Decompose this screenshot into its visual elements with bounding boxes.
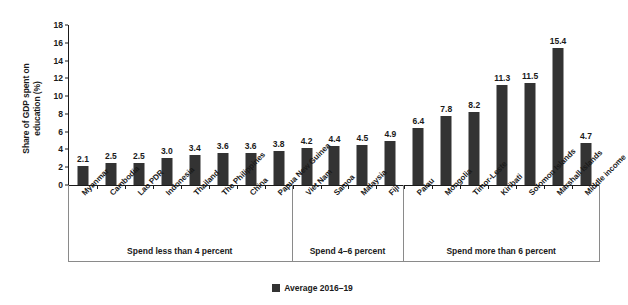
- bar: [385, 141, 396, 185]
- bar-value-label: 4.9: [384, 129, 396, 139]
- bar-value-label: 15.4: [550, 36, 567, 46]
- bar: [329, 146, 340, 185]
- bar: [357, 145, 368, 185]
- bar: [217, 153, 228, 185]
- y-tick-mark: [65, 96, 68, 97]
- y-tick-mark: [65, 25, 68, 26]
- bar-slot: 3.4: [181, 25, 209, 185]
- y-tick-mark: [65, 42, 68, 43]
- y-tick-label: 4: [28, 144, 68, 154]
- bar: [273, 151, 284, 185]
- bar-slot: 6.4: [404, 25, 432, 185]
- y-tick-label: 2: [28, 162, 68, 172]
- bar-slot: 2.5: [97, 25, 125, 185]
- bar-value-label: 8.2: [468, 100, 480, 110]
- y-tick-mark: [65, 78, 68, 79]
- legend-label: Average 2016–19: [284, 283, 353, 293]
- bar-slot: 3.0: [153, 25, 181, 185]
- bar: [77, 166, 88, 185]
- y-tick-label: 10: [28, 91, 68, 101]
- bar-value-label: 7.8: [440, 104, 452, 114]
- bar-value-label: 3.0: [161, 146, 173, 156]
- bar-value-label: 2.5: [105, 151, 117, 161]
- y-tick-mark: [65, 60, 68, 61]
- y-tick-mark: [65, 167, 68, 168]
- bar-slot: 7.8: [432, 25, 460, 185]
- bar-slot: 2.5: [125, 25, 153, 185]
- bar-slot: 2.1: [69, 25, 97, 185]
- bar-value-label: 3.6: [245, 141, 257, 151]
- bar-series: 2.12.52.53.03.43.63.63.84.24.44.54.96.47…: [69, 25, 600, 185]
- bar: [413, 128, 424, 185]
- bar-value-label: 4.7: [580, 131, 592, 141]
- bar-slot: 4.9: [376, 25, 404, 185]
- bar-slot: 4.5: [348, 25, 376, 185]
- y-tick-label: 18: [28, 20, 68, 30]
- bar-slot: 11.5: [516, 25, 544, 185]
- group-label: Spend 4–6 percent: [292, 246, 404, 256]
- legend-swatch-icon: [272, 284, 280, 292]
- y-tick-label: 16: [28, 38, 68, 48]
- bar-value-label: 4.5: [357, 133, 369, 143]
- group-label: Spend more than 6 percent: [403, 246, 599, 256]
- y-tick-mark: [65, 131, 68, 132]
- bar: [525, 83, 536, 185]
- bar-value-label: 2.5: [133, 151, 145, 161]
- bar: [441, 116, 452, 185]
- bar-slot: 4.4: [321, 25, 349, 185]
- y-tick-mark: [65, 149, 68, 150]
- bar-slot: 8.2: [460, 25, 488, 185]
- y-tick-mark: [65, 113, 68, 114]
- bar-value-label: 3.6: [217, 141, 229, 151]
- bar-value-label: 3.4: [189, 143, 201, 153]
- y-tick-label: 0: [28, 180, 68, 190]
- bar-slot: 3.8: [265, 25, 293, 185]
- bar-slot: 3.6: [209, 25, 237, 185]
- bar-value-label: 4.2: [301, 136, 313, 146]
- group-label: Spend less than 4 percent: [68, 246, 292, 256]
- bar-value-label: 4.4: [329, 134, 341, 144]
- y-tick-label: 8: [28, 109, 68, 119]
- plot-area: 024681012141618 2.12.52.53.03.43.63.63.8…: [68, 25, 600, 185]
- bar-value-label: 3.8: [273, 139, 285, 149]
- bar-value-label: 2.1: [77, 154, 89, 164]
- chart-legend: Average 2016–19: [0, 283, 625, 293]
- y-tick-label: 6: [28, 127, 68, 137]
- bar-value-label: 11.5: [522, 71, 538, 81]
- y-tick-label: 12: [28, 73, 68, 83]
- bar-value-label: 11.3: [494, 73, 510, 83]
- y-tick-label: 14: [28, 56, 68, 66]
- bar-value-label: 6.4: [412, 116, 424, 126]
